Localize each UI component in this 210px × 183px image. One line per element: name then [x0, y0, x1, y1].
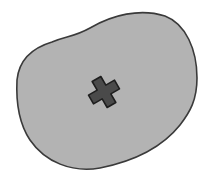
diagram-canvas [0, 0, 210, 183]
